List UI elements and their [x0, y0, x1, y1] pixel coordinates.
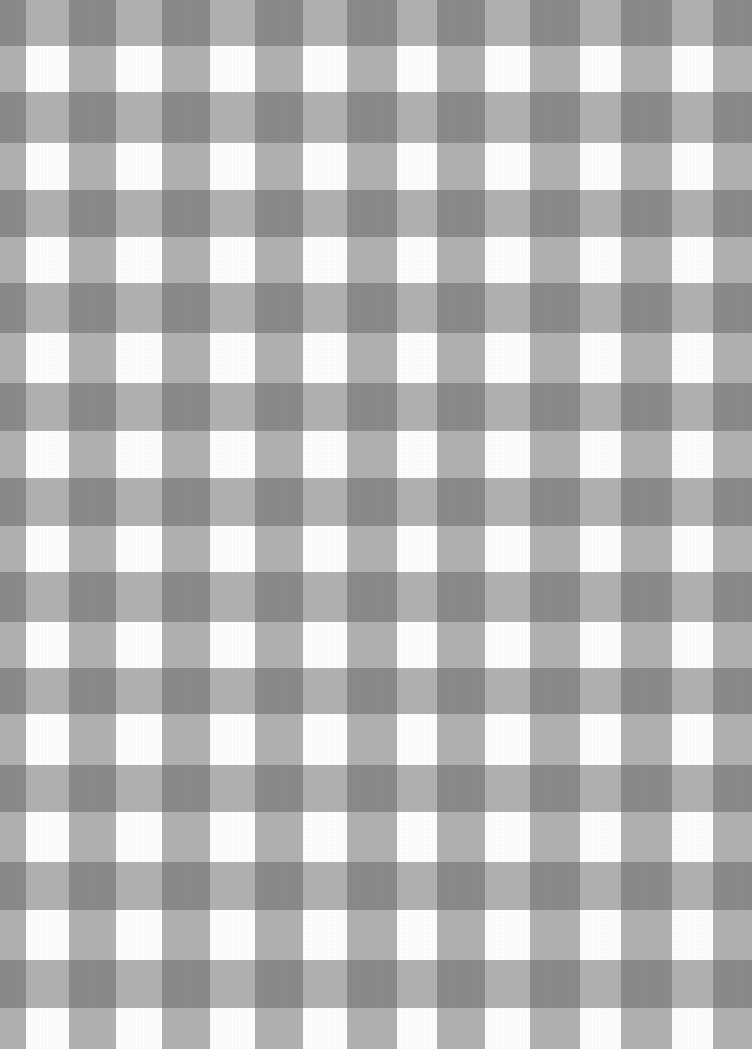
stripe-intersection — [621, 765, 672, 812]
stripe-intersection — [69, 765, 116, 812]
stripe-intersection — [162, 383, 210, 431]
stripe-intersection — [255, 960, 303, 1008]
stripe-intersection — [69, 572, 116, 622]
stripe-intersection — [0, 283, 26, 333]
stripe-intersection — [162, 668, 210, 714]
stripe-intersection — [437, 92, 485, 143]
stripe-intersection — [713, 862, 752, 910]
stripe-intersection — [530, 572, 580, 622]
stripe-intersection — [530, 283, 580, 333]
stripe-intersection — [162, 92, 210, 143]
stripe-intersection — [713, 283, 752, 333]
stripe-intersection — [621, 668, 672, 714]
stripe-intersection — [530, 0, 580, 46]
stripe-intersection — [347, 478, 397, 526]
stripe-intersection — [69, 960, 116, 1008]
stripe-intersection — [530, 765, 580, 812]
stripe-intersection — [530, 383, 580, 431]
stripe-intersection — [0, 92, 26, 143]
stripe-intersection — [713, 572, 752, 622]
stripe-intersection — [347, 0, 397, 46]
stripe-intersection — [347, 383, 397, 431]
stripe-intersection — [0, 668, 26, 714]
stripe-intersection — [621, 572, 672, 622]
stripe-intersection — [255, 572, 303, 622]
stripe-intersection — [713, 92, 752, 143]
stripe-intersection — [621, 960, 672, 1008]
gingham-pattern — [0, 0, 752, 1049]
stripe-intersection — [69, 0, 116, 46]
stripe-intersection — [347, 765, 397, 812]
stripe-intersection — [255, 668, 303, 714]
stripe-intersection — [69, 190, 116, 237]
stripe-intersection — [162, 190, 210, 237]
stripe-intersection — [347, 283, 397, 333]
stripe-intersection — [437, 383, 485, 431]
stripe-intersection — [621, 283, 672, 333]
stripe-intersection — [0, 765, 26, 812]
stripe-intersection — [530, 668, 580, 714]
stripe-intersection — [530, 960, 580, 1008]
stripe-intersection — [255, 383, 303, 431]
stripe-intersection — [713, 960, 752, 1008]
stripe-intersection — [437, 862, 485, 910]
stripe-intersection — [347, 862, 397, 910]
stripe-intersection — [530, 478, 580, 526]
stripe-intersection — [69, 283, 116, 333]
stripe-intersection — [713, 478, 752, 526]
stripe-intersection — [621, 0, 672, 46]
stripe-intersection — [530, 92, 580, 143]
stripe-intersection — [69, 383, 116, 431]
stripe-intersection — [255, 0, 303, 46]
stripe-intersection — [621, 92, 672, 143]
stripe-intersection — [69, 478, 116, 526]
stripe-intersection — [162, 960, 210, 1008]
stripe-intersection — [347, 190, 397, 237]
stripe-intersection — [162, 765, 210, 812]
stripe-intersection — [621, 478, 672, 526]
stripe-intersection — [530, 190, 580, 237]
stripe-intersection — [437, 478, 485, 526]
stripe-intersection — [162, 478, 210, 526]
stripe-intersection — [530, 862, 580, 910]
stripe-intersection — [437, 668, 485, 714]
stripe-intersection — [347, 960, 397, 1008]
stripe-intersection — [621, 383, 672, 431]
stripe-intersection — [0, 862, 26, 910]
stripe-intersection — [0, 478, 26, 526]
stripe-intersection — [437, 765, 485, 812]
stripe-intersection — [0, 960, 26, 1008]
stripe-intersection — [713, 383, 752, 431]
stripe-intersection — [0, 0, 26, 46]
stripe-intersection — [437, 190, 485, 237]
stripe-intersection — [255, 283, 303, 333]
stripe-intersection — [0, 572, 26, 622]
stripe-intersection — [0, 383, 26, 431]
stripe-intersection — [347, 572, 397, 622]
stripe-intersection — [69, 92, 116, 143]
stripe-intersection — [255, 765, 303, 812]
stripe-intersection — [162, 862, 210, 910]
stripe-intersection — [69, 668, 116, 714]
stripe-intersection — [255, 92, 303, 143]
stripe-intersection — [713, 765, 752, 812]
stripe-intersection — [713, 190, 752, 237]
stripe-intersection — [713, 668, 752, 714]
stripe-intersection — [437, 572, 485, 622]
stripe-intersection — [69, 862, 116, 910]
stripe-intersection — [621, 190, 672, 237]
stripe-intersection — [162, 283, 210, 333]
stripe-intersection — [255, 862, 303, 910]
stripe-intersection — [0, 190, 26, 237]
stripe-intersection — [347, 668, 397, 714]
stripe-intersection — [255, 478, 303, 526]
stripe-intersection — [162, 572, 210, 622]
stripe-intersection — [437, 283, 485, 333]
stripe-intersection — [437, 960, 485, 1008]
stripe-intersection — [437, 0, 485, 46]
stripe-intersection — [347, 92, 397, 143]
stripe-intersection — [162, 0, 210, 46]
stripe-intersection — [713, 0, 752, 46]
stripe-intersection — [621, 862, 672, 910]
stripe-intersection — [255, 190, 303, 237]
